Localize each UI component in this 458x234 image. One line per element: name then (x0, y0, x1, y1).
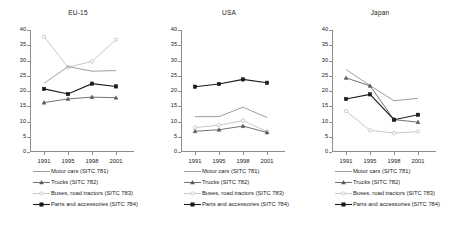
x-axis-tick (370, 152, 371, 155)
y-axis-tick (329, 76, 332, 77)
data-point-parts (368, 93, 371, 96)
legend-label: Buses, road tractors (SITC 783) (51, 191, 133, 197)
legend-item[interactable]: Motor cars (SITC 781) (32, 166, 156, 177)
y-axis-tick (27, 106, 30, 107)
y-axis-tick-label: 15 (159, 103, 177, 109)
plot-inner-eu-15: 05101520253035401991199519982001 (30, 30, 134, 152)
x-axis-tick (267, 152, 268, 155)
legend-label: Trucks (SITC 782) (51, 180, 98, 186)
legend-japan: Motor cars (SITC 781)Trucks (SITC 782)Bu… (334, 166, 458, 210)
y-axis-tick-label: 20 (310, 88, 328, 94)
series-line-motor_cars (195, 107, 267, 117)
data-point-buses (241, 119, 244, 122)
figure-canvas: EU-15 05101520253035401991199519982001 M… (0, 0, 458, 234)
legend-swatch-buses (334, 188, 353, 199)
series-line-buses (44, 37, 116, 68)
y-axis-tick-label: 25 (310, 73, 328, 79)
data-point-buses (368, 129, 371, 132)
y-axis-tick (178, 30, 181, 31)
legend-item[interactable]: Buses, road tractors (SITC 783) (334, 188, 458, 199)
y-axis-tick-label: 20 (8, 88, 26, 94)
legend-item[interactable]: Buses, road tractors (SITC 783) (183, 188, 307, 199)
legend-item[interactable]: Parts and accessories (SITC 784) (183, 199, 307, 210)
y-axis-tick-label: 35 (8, 42, 26, 48)
y-axis-tick (27, 30, 30, 31)
panel-title-japan: Japan (304, 9, 456, 16)
x-axis-tick (195, 152, 196, 155)
x-axis-tick-label: 2001 (101, 159, 131, 165)
legend-swatch-trucks (183, 177, 202, 188)
legend-eu-15: Motor cars (SITC 781)Trucks (SITC 782)Bu… (32, 166, 156, 210)
y-axis-tick-label: 25 (159, 73, 177, 79)
x-axis-tick-label: 2001 (403, 159, 433, 165)
y-axis-tick-label: 40 (310, 27, 328, 33)
data-point-parts (392, 118, 395, 121)
legend-swatch-motor_cars (183, 166, 202, 177)
chart-panel-japan: Japan 05101520253035401991199519982001 M… (304, 0, 456, 234)
legend-item[interactable]: Parts and accessories (SITC 784) (32, 199, 156, 210)
y-axis-tick-label: 35 (159, 42, 177, 48)
series-line-trucks (346, 78, 418, 122)
legend-swatch-trucks (334, 177, 353, 188)
chart-panel-usa: USA 05101520253035401991199519982001 Mot… (153, 0, 305, 234)
y-axis-tick (178, 122, 181, 123)
legend-item[interactable]: Trucks (SITC 782) (32, 177, 156, 188)
legend-item[interactable]: Motor cars (SITC 781) (183, 166, 307, 177)
y-axis-tick-label: 15 (8, 103, 26, 109)
data-point-buses (416, 130, 419, 133)
y-axis-tick (178, 91, 181, 92)
series-line-parts (44, 84, 116, 94)
data-point-parts (265, 81, 268, 84)
legend-label: Buses, road tractors (SITC 783) (202, 191, 284, 197)
legend-label: Buses, road tractors (SITC 783) (353, 191, 435, 197)
plot-inner-japan: 05101520253035401991199519982001 (332, 30, 436, 152)
y-axis-tick (27, 61, 30, 62)
y-axis-tick (329, 61, 332, 62)
data-point-parts (416, 113, 419, 116)
legend-label: Trucks (SITC 782) (202, 180, 249, 186)
x-axis-tick (92, 152, 93, 155)
legend-label: Parts and accessories (SITC 784) (202, 202, 289, 208)
legend-item[interactable]: Parts and accessories (SITC 784) (334, 199, 458, 210)
y-axis-tick-label: 0 (8, 149, 26, 155)
legend-swatch-motor_cars (334, 166, 353, 177)
y-axis-tick (329, 152, 332, 153)
y-axis-tick (329, 137, 332, 138)
y-axis-tick (27, 152, 30, 153)
legend-label: Parts and accessories (SITC 784) (353, 202, 440, 208)
y-axis-tick-label: 0 (310, 149, 328, 155)
x-axis-tick (394, 152, 395, 155)
data-point-buses (344, 109, 347, 112)
series-layer-usa (181, 30, 285, 152)
x-axis-tick (418, 152, 419, 155)
y-axis-tick-label: 10 (8, 119, 26, 125)
y-axis-tick-label: 40 (159, 27, 177, 33)
legend-item[interactable]: Buses, road tractors (SITC 783) (32, 188, 156, 199)
legend-swatch-parts (334, 199, 353, 210)
series-line-motor_cars (44, 67, 116, 84)
plot-area-eu-15: 05101520253035401991199519982001 (30, 30, 134, 152)
legend-swatch-buses (183, 188, 202, 199)
data-point-parts (90, 82, 93, 85)
series-line-trucks (44, 97, 116, 102)
y-axis-tick-label: 0 (159, 149, 177, 155)
data-point-parts (66, 92, 69, 95)
legend-label: Motor cars (SITC 781) (353, 169, 410, 175)
data-point-trucks (344, 76, 348, 80)
x-axis-tick-label: 2001 (252, 159, 282, 165)
y-axis-tick (178, 45, 181, 46)
y-axis-tick (178, 137, 181, 138)
data-point-parts (42, 87, 45, 90)
y-axis-tick (329, 106, 332, 107)
series-line-motor_cars (346, 70, 418, 101)
x-axis-tick (243, 152, 244, 155)
y-axis-tick (27, 91, 30, 92)
legend-item[interactable]: Motor cars (SITC 781) (334, 166, 458, 177)
x-axis-tick (68, 152, 69, 155)
x-axis-tick (219, 152, 220, 155)
legend-item[interactable]: Trucks (SITC 782) (334, 177, 458, 188)
panel-title-eu-15: EU-15 (2, 9, 154, 16)
data-point-buses (42, 35, 45, 38)
y-axis-tick (329, 122, 332, 123)
legend-item[interactable]: Trucks (SITC 782) (183, 177, 307, 188)
